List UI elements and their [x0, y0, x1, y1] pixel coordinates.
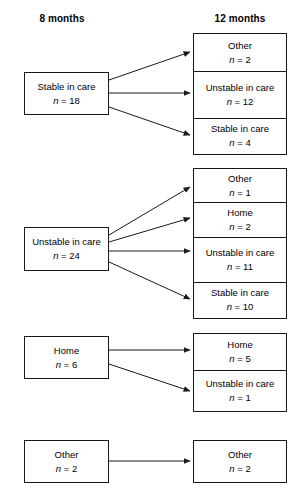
- node-label: Other: [228, 449, 252, 461]
- node-count: n = 4: [229, 137, 250, 149]
- target-stack-group-1: Other n = 2 Unstable in care n = 12 Stab…: [193, 33, 287, 155]
- arrow-home6-to-unstable1: [109, 364, 190, 391]
- arrow-group-2: [109, 187, 190, 299]
- arrow-stable18-to-stable4: [109, 107, 190, 135]
- target-node-unstable-in-care-12[interactable]: Unstable in care n = 12: [194, 71, 286, 118]
- node-count: n = 2: [229, 463, 250, 475]
- node-label: Unstable in care: [206, 82, 275, 94]
- arrow-unstable24-to-stable10: [109, 262, 190, 299]
- source-node-stable-in-care-18[interactable]: Stable in care n = 18: [24, 72, 109, 115]
- node-label: Unstable in care: [206, 378, 275, 390]
- node-count: n = 2: [229, 221, 250, 233]
- node-count: n = 1: [229, 187, 250, 199]
- node-label: Other: [228, 40, 252, 52]
- node-count: n = 1: [229, 392, 250, 404]
- node-count: n = 5: [229, 353, 250, 365]
- node-count: n = 2: [56, 463, 77, 475]
- arrow-group-1: [109, 52, 190, 135]
- target-stack-group-3: Home n = 5 Unstable in care n = 1: [193, 333, 287, 412]
- node-count: n = 18: [53, 95, 80, 107]
- node-label: Unstable in care: [206, 247, 275, 259]
- target-stack-group-2: Other n = 1 Home n = 2 Unstable in care …: [193, 168, 287, 319]
- node-count: n = 24: [53, 250, 80, 262]
- node-label: Stable in care: [211, 123, 269, 135]
- target-node-other-2[interactable]: Other n = 2: [194, 34, 286, 71]
- flowchart-root: 8 months 12 months Stable in care n = 18…: [0, 0, 299, 501]
- target-node-other-2-final[interactable]: Other n = 2: [193, 440, 287, 483]
- node-label: Stable in care: [211, 287, 269, 299]
- node-count: n = 6: [56, 359, 77, 371]
- node-count: n = 2: [229, 54, 250, 66]
- arrow-unstable24-to-other1: [109, 187, 190, 235]
- node-label: Home: [227, 339, 252, 351]
- arrow-unstable24-to-home2: [109, 218, 190, 242]
- node-label: Other: [55, 449, 79, 461]
- target-node-unstable-in-care-1[interactable]: Unstable in care n = 1: [194, 370, 286, 411]
- source-node-home-6[interactable]: Home n = 6: [24, 336, 109, 379]
- node-count: n = 11: [227, 261, 253, 273]
- column-header-left: 8 months: [14, 13, 110, 24]
- target-node-home-2[interactable]: Home n = 2: [194, 202, 286, 237]
- target-node-other-1[interactable]: Other n = 1: [194, 169, 286, 202]
- node-label: Stable in care: [37, 81, 95, 93]
- column-header-right: 12 months: [193, 13, 287, 24]
- node-count: n = 12: [227, 96, 254, 108]
- arrow-stable18-to-other2: [109, 52, 190, 80]
- arrow-group-3: [109, 350, 190, 391]
- source-node-other-2[interactable]: Other n = 2: [24, 440, 109, 483]
- node-label: Unstable in care: [32, 236, 101, 248]
- node-label: Home: [227, 207, 252, 219]
- target-node-stable-in-care-10[interactable]: Stable in care n = 10: [194, 282, 286, 318]
- target-node-home-5[interactable]: Home n = 5: [194, 334, 286, 370]
- source-node-unstable-in-care-24[interactable]: Unstable in care n = 24: [24, 227, 109, 271]
- target-node-unstable-in-care-11[interactable]: Unstable in care n = 11: [194, 237, 286, 282]
- node-label: Other: [228, 173, 252, 185]
- node-count: n = 10: [227, 301, 254, 313]
- target-node-stable-in-care-4[interactable]: Stable in care n = 4: [194, 118, 286, 154]
- node-label: Home: [54, 345, 79, 357]
